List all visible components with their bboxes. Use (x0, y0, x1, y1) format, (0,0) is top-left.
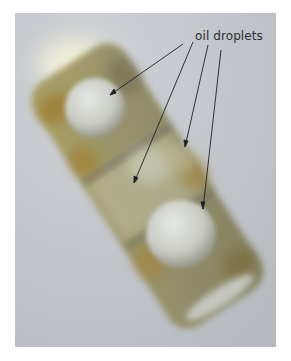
oil-droplets-label: oil droplets (195, 29, 263, 43)
oil-droplet-3 (164, 146, 196, 174)
diatom-image (15, 13, 276, 347)
oil-droplet-1 (65, 78, 125, 138)
oil-droplet-4 (146, 200, 216, 268)
micrograph-photo (15, 13, 276, 347)
